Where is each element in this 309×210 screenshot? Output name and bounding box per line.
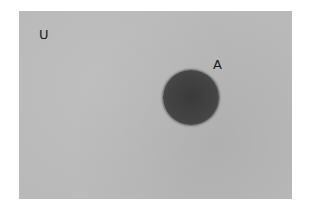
universal-set-label: U [39, 28, 49, 41]
set-a-circle [163, 70, 219, 125]
set-a-label: A [213, 58, 222, 71]
universal-set-rectangle [19, 11, 292, 199]
